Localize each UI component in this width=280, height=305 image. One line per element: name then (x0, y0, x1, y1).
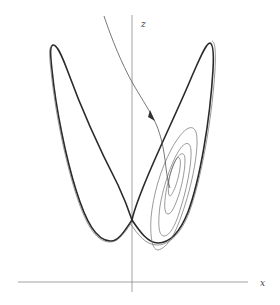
right-lobe-outer-band-2 (130, 41, 215, 245)
x-axis-label: x (260, 278, 265, 288)
left-lobe-inner-band (50, 46, 132, 242)
left-lobe (50, 45, 132, 242)
right-lobe-spiral-2 (159, 143, 191, 236)
right-lobe-outer-band (132, 43, 213, 243)
phase-portrait: z x (0, 0, 280, 305)
z-axis-label: z (140, 19, 146, 29)
right-lobe (130, 41, 215, 250)
direction-arrow-icon (148, 110, 155, 121)
trajectory-path (104, 16, 170, 188)
incoming-trajectory (104, 16, 170, 188)
